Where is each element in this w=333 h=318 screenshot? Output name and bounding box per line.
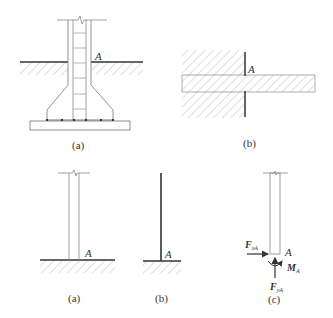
caption-top-a: (a): [72, 139, 85, 152]
top-panel-b: A (b): [182, 50, 315, 150]
fixed-support-diagram: A (a) A (b) A (a) A (b) FxA F: [0, 0, 333, 318]
force-label-vertical: FyA: [269, 281, 283, 293]
caption-top-b: (b): [243, 137, 256, 150]
free-body-column: [270, 173, 280, 254]
cantilever-beam: [182, 75, 315, 92]
ground-hatch: [40, 261, 115, 273]
bottom-panel-b: A (b): [143, 173, 181, 305]
point-label-b-bottom: A: [164, 248, 172, 260]
ground-hatch-left: [20, 63, 68, 75]
point-label-b-top: A: [247, 63, 255, 75]
force-label-horizontal: FxA: [244, 239, 258, 251]
moment-label: MA: [286, 262, 300, 274]
ground-hatch-right: [91, 63, 143, 75]
break-line: [57, 16, 107, 24]
caption-bottom-b: (b): [155, 292, 168, 305]
ground-hatch: [143, 262, 181, 274]
stirrups: [73, 33, 86, 109]
footing: [30, 121, 130, 130]
point-label-a-bottom: A: [84, 247, 92, 259]
bottom-panel-a: A (a): [40, 170, 115, 305]
point-label-a-top: A: [94, 50, 102, 62]
bottom-panel-c: FxA FyA MA A (c): [244, 171, 300, 306]
caption-bottom-a: (a): [68, 292, 81, 305]
point-label-c: A: [284, 246, 292, 258]
caption-bottom-c: (c): [268, 293, 281, 306]
break-line: [58, 170, 90, 176]
top-panel-a: A (a): [20, 16, 143, 152]
